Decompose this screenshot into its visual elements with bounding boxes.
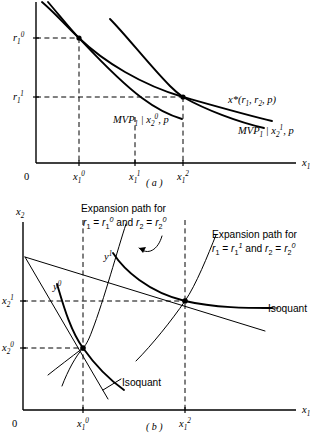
annotation-expansion-path-2-line2: r1 = r11 and r2 = r20: [212, 241, 296, 257]
annotation-expansion-path-1-line1: Expansion path for: [81, 203, 167, 214]
panel-b: x2 x1 x21 x20 0 x10 x12 y0 y1 Expansion …: [0, 200, 325, 435]
curve-mvp-x2-0: [48, 2, 182, 119]
isocost-flat: [25, 257, 265, 331]
isocost-tail-lower: [48, 348, 83, 375]
axis-label-x2-b: x2: [15, 206, 25, 220]
curve-mvp-x2-1: [110, 19, 264, 128]
isoquant-y1: [113, 253, 272, 308]
panel-a-curves: [42, 2, 272, 128]
panel-b-markers: [80, 298, 188, 351]
panel-b-ticks: [20, 301, 185, 413]
label-mvp-x2-0: MVP1 | x20, p: [112, 113, 169, 128]
marker-point-a1: [76, 35, 81, 40]
axis-label-x1-a: x1: [301, 157, 310, 171]
panel-a-guides: [36, 38, 183, 163]
origin-label-b: 0: [12, 418, 17, 429]
arrow-head-expansion-path-1: [139, 247, 146, 253]
label-mvp-x2-1: MVP1 | x21, p: [237, 124, 294, 139]
ytick-label-r1-1: r11: [13, 90, 24, 105]
axis-label-x1-b: x1: [301, 404, 310, 418]
panel-b-isoquants: [57, 253, 272, 390]
annotation-expansion-path-2-line1: Expansion path for: [212, 229, 298, 240]
xtick-label-x1-2-b: x12: [178, 417, 191, 432]
panel-caption-b: ( b ): [146, 421, 163, 433]
panel-a: r10 r11 0 x10 x11 x12 x1 x*(r1, r2, p) M…: [0, 0, 325, 200]
panel-caption-a: ( a ): [146, 177, 163, 189]
xtick-label-x1-0-b: x10: [76, 417, 89, 432]
ytick-label-x2-1: x21: [1, 294, 14, 309]
xtick-label-x1-1: x11: [128, 170, 140, 185]
panel-a-ticks: [33, 38, 183, 166]
ytick-label-x2-0: x20: [1, 341, 14, 356]
ytick-label-r1-0: r10: [13, 31, 25, 46]
xtick-label-x1-0: x10: [72, 170, 85, 185]
label-factor-demand: x*(r1, r2, p): [227, 94, 277, 108]
marker-point-a2: [180, 94, 185, 99]
label-output-y0: y0: [52, 280, 62, 292]
annotation-isoquant-lower: Isoquant: [122, 377, 161, 388]
origin-label-a: 0: [24, 171, 29, 182]
marker-point-b2: [182, 298, 188, 304]
annotation-isoquant-upper: Isoquant: [268, 303, 307, 314]
xtick-label-x1-2: x12: [176, 170, 189, 185]
label-output-y1: y1: [103, 250, 112, 262]
figure-root: r10 r11 0 x10 x11 x12 x1 x*(r1, r2, p) M…: [0, 0, 325, 435]
